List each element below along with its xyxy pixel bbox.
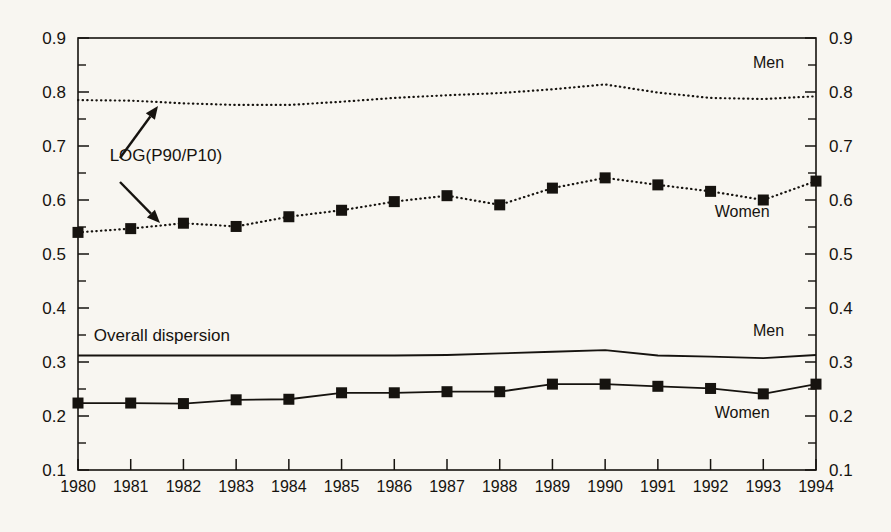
x-axis-tick-label: 1989 xyxy=(535,478,571,495)
data-point-marker xyxy=(73,227,84,238)
x-axis-tick-label: 1981 xyxy=(113,478,149,495)
x-axis-tick-label: 1992 xyxy=(693,478,729,495)
x-axis-tick-label: 1980 xyxy=(60,478,96,495)
x-axis-tick-label: 1985 xyxy=(324,478,360,495)
x-axis-tick-label: 1991 xyxy=(640,478,676,495)
arrow-to-men-dotted-head xyxy=(146,106,158,120)
data-point-marker xyxy=(283,211,294,222)
data-point-marker xyxy=(442,190,453,201)
y-axis-tick-label: 0.8 xyxy=(42,83,66,102)
x-axis-tick-label: 1988 xyxy=(482,478,518,495)
series-line-overall-dispersion-men xyxy=(78,350,816,358)
men-dotted-label: Men xyxy=(753,54,784,71)
x-axis-tick-label: 1987 xyxy=(429,478,465,495)
x-axis-ticks xyxy=(78,459,816,470)
data-point-marker xyxy=(125,398,136,409)
y-axis-tick-label: 0.5 xyxy=(42,245,66,264)
data-point-marker xyxy=(494,199,505,210)
data-marker-layer xyxy=(73,172,822,409)
data-point-marker xyxy=(336,205,347,216)
y-axis-tick-label: 0.7 xyxy=(829,137,853,156)
x-axis-tick-label: 1983 xyxy=(218,478,254,495)
y-axis-tick-label: 0.7 xyxy=(42,137,66,156)
data-point-marker xyxy=(336,387,347,398)
data-point-marker xyxy=(494,386,505,397)
x-axis-labels: 1980198119821983198419851986198719881989… xyxy=(60,478,834,495)
data-point-marker xyxy=(758,388,769,399)
data-point-marker xyxy=(600,172,611,183)
data-point-marker xyxy=(547,183,558,194)
x-axis-tick-label: 1993 xyxy=(745,478,781,495)
men-solid-label: Men xyxy=(753,322,784,339)
x-axis-tick-label: 1982 xyxy=(166,478,202,495)
data-point-marker xyxy=(389,196,400,207)
data-point-marker xyxy=(231,394,242,405)
y-axis-left-labels: 0.10.20.30.40.50.60.70.80.9 xyxy=(42,29,66,480)
y-axis-tick-label: 0.6 xyxy=(829,191,853,210)
data-point-marker xyxy=(73,398,84,409)
y-axis-tick-label: 0.3 xyxy=(829,353,853,372)
annotation-overall-dispersion: Overall dispersion xyxy=(94,326,230,345)
x-axis-tick-label: 1984 xyxy=(271,478,307,495)
y-axis-tick-label: 0.2 xyxy=(829,407,853,426)
women-solid-label: Women xyxy=(715,404,770,421)
women-dotted-label: Women xyxy=(715,203,770,220)
data-point-marker xyxy=(652,381,663,392)
data-point-marker xyxy=(705,383,716,394)
series-line-log-p90-p10--men xyxy=(78,84,816,105)
data-point-marker xyxy=(178,218,189,229)
data-point-marker xyxy=(283,394,294,405)
x-axis-tick-label: 1986 xyxy=(376,478,412,495)
data-point-marker xyxy=(125,223,136,234)
data-point-marker xyxy=(600,379,611,390)
series-inline-labels: MenWomenMenWomen xyxy=(715,54,784,421)
y-axis-tick-label: 0.4 xyxy=(829,299,853,318)
data-point-marker xyxy=(389,387,400,398)
data-point-marker xyxy=(442,386,453,397)
data-point-marker xyxy=(178,398,189,409)
chart-figure: 0.10.20.30.40.50.60.70.80.9 0.10.20.30.4… xyxy=(0,0,891,532)
y-axis-tick-label: 0.3 xyxy=(42,353,66,372)
data-point-marker xyxy=(547,379,558,390)
data-point-marker xyxy=(231,221,242,232)
y-axis-tick-label: 0.4 xyxy=(42,299,66,318)
y-axis-tick-label: 0.9 xyxy=(829,29,853,48)
y-axis-tick-label: 0.6 xyxy=(42,191,66,210)
y-axis-right-labels: 0.10.20.30.40.50.60.70.80.9 xyxy=(829,29,853,480)
data-point-marker xyxy=(811,176,822,187)
chart-canvas: 0.10.20.30.40.50.60.70.80.9 0.10.20.30.4… xyxy=(0,0,891,532)
data-point-marker xyxy=(652,179,663,190)
data-series-layer xyxy=(78,84,816,403)
y-axis-tick-label: 0.2 xyxy=(42,407,66,426)
y-axis-tick-label: 0.5 xyxy=(829,245,853,264)
x-axis-tick-label: 1994 xyxy=(798,478,834,495)
y-axis-right-ticks xyxy=(805,38,816,470)
y-axis-tick-label: 0.9 xyxy=(42,29,66,48)
arrow-to-women-dotted-shaft xyxy=(120,182,151,214)
data-point-marker xyxy=(705,186,716,197)
x-axis-tick-label: 1990 xyxy=(587,478,623,495)
y-axis-tick-label: 0.8 xyxy=(829,83,853,102)
data-point-marker xyxy=(811,379,822,390)
